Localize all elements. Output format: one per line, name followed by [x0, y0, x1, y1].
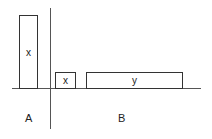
region-label-a: A — [25, 112, 32, 124]
wide-y-box: y — [86, 72, 183, 89]
tall-x-box: x — [19, 15, 38, 89]
box-label: y — [132, 75, 137, 86]
vertical-divider — [50, 8, 51, 129]
box-label: x — [63, 75, 68, 86]
small-x-box: x — [55, 72, 76, 89]
region-label-b: B — [118, 112, 125, 124]
box-label: x — [26, 47, 31, 58]
